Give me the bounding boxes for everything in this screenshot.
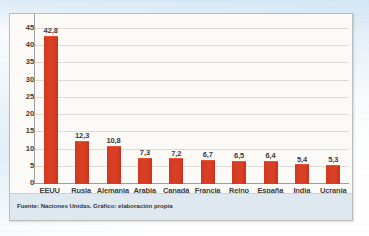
bar-chart-figure: 45 40 35 30 25 20 15 10 5 0 42,812,310,8… (9, 13, 353, 221)
y-axis-tick: 30 (26, 76, 34, 84)
bar-value-label: 7,2 (171, 150, 181, 158)
bar-slot[interactable]: 6,5 (223, 14, 254, 184)
bar-slot[interactable]: 7,2 (161, 14, 192, 184)
bar-slot[interactable]: 42,8 (35, 14, 66, 184)
bar[interactable] (44, 36, 58, 184)
bar-slot[interactable]: 10,8 (98, 14, 129, 184)
bar-value-label: 42,8 (44, 27, 58, 35)
y-axis-tick: 45 (26, 24, 34, 32)
bar-series: 42,812,310,87,37,26,76,56,45,45,3 (35, 14, 349, 184)
y-axis-tick: 40 (26, 41, 34, 49)
bar[interactable] (295, 164, 309, 184)
bar-value-label: 5,3 (328, 156, 338, 164)
y-axis-tick: 35 (26, 59, 34, 67)
bar-slot[interactable]: 12,3 (66, 14, 97, 184)
bar-value-label: 12,3 (75, 132, 89, 140)
source-band: Fuente: Naciones Unidas. Gráfico: elabor… (10, 193, 352, 220)
y-axis-tick-labels: 45 40 35 30 25 20 15 10 5 0 (14, 14, 34, 184)
bar[interactable] (201, 160, 215, 184)
bar[interactable] (75, 141, 89, 184)
bar-value-label: 5,4 (297, 156, 307, 164)
bar-value-label: 6,4 (265, 152, 275, 160)
bar[interactable] (264, 161, 278, 184)
bar-slot[interactable]: 5,4 (286, 14, 317, 184)
plot-area: 42,812,310,87,37,26,76,56,45,45,3 (34, 14, 349, 184)
source-note: Fuente: Naciones Unidas. Gráfico: elabor… (17, 202, 173, 209)
bar-value-label: 10,8 (106, 137, 120, 145)
bar[interactable] (232, 161, 246, 184)
bar-value-label: 6,5 (234, 152, 244, 160)
y-axis-tick: 15 (26, 128, 34, 136)
y-axis-tick: 20 (26, 110, 34, 118)
bar[interactable] (138, 158, 152, 184)
bar-value-label: 7,3 (140, 149, 150, 157)
bar[interactable] (326, 165, 340, 184)
y-axis-tick: 10 (26, 145, 34, 153)
bar-value-label: 6,7 (203, 151, 213, 159)
bar-slot[interactable]: 6,4 (255, 14, 286, 184)
bar-slot[interactable]: 6,7 (192, 14, 223, 184)
bar[interactable] (107, 146, 121, 184)
plot-area-wrapper: 45 40 35 30 25 20 15 10 5 0 42,812,310,8… (10, 14, 352, 184)
bar-slot[interactable]: 7,3 (129, 14, 160, 184)
bar-slot[interactable]: 5,3 (318, 14, 349, 184)
scanned-page: 45 40 35 30 25 20 15 10 5 0 42,812,310,8… (0, 0, 369, 236)
y-axis-tick: 25 (26, 93, 34, 101)
bar[interactable] (169, 158, 183, 184)
